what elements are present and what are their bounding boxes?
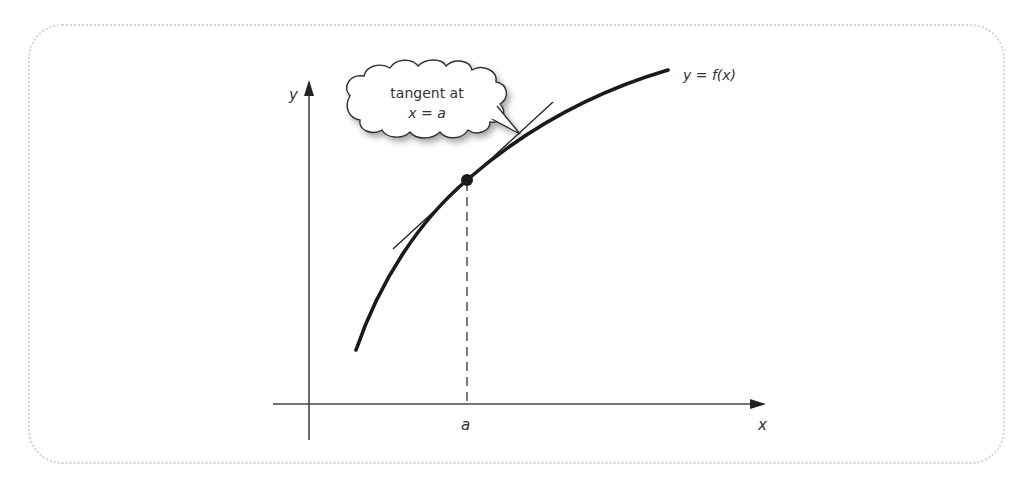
x-axis-label: x bbox=[757, 416, 767, 434]
callout-line1: tangent at bbox=[390, 85, 464, 101]
x-axis bbox=[273, 399, 766, 409]
callout-line2: x = a bbox=[407, 105, 446, 121]
tangent-diagram: y x a y = f(x) tangent at x = a bbox=[0, 0, 1030, 479]
y-axis-arrow-icon bbox=[304, 80, 314, 96]
y-axis bbox=[304, 80, 314, 440]
curve-label: y = f(x) bbox=[682, 67, 736, 83]
tangent-point bbox=[461, 174, 473, 186]
point-a-label: a bbox=[461, 416, 470, 434]
x-axis-arrow-icon bbox=[750, 399, 766, 409]
y-axis-label: y bbox=[288, 86, 299, 104]
